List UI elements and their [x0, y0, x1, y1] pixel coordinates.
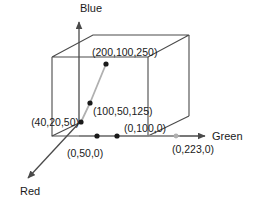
point-dot-0-100-0 [114, 133, 119, 138]
point-label-0-223-0: (0,223,0) [172, 143, 214, 155]
point-label-40-20-50: (40,20,50) [31, 116, 79, 128]
point-label-200-100-250: (200,100,250) [92, 46, 157, 58]
point-label-0-100-0: (0,100,0) [124, 122, 166, 134]
blue-axis-label: Blue [80, 2, 102, 14]
point-dot-40-20-50 [78, 119, 83, 124]
rgb-color-cube-figure: Blue Green Red (200,100,250) (100,50,125… [0, 0, 254, 206]
figure-canvas: Blue Green Red (200,100,250) (100,50,125… [0, 0, 254, 206]
red-axis-label: Red [20, 185, 40, 197]
point-dot-0-50-0 [94, 133, 99, 138]
point-label-0-50-0: (0,50,0) [67, 147, 103, 159]
point-label-100-50-125: (100,50,125) [93, 105, 153, 117]
point-dot-100-50-125 [87, 100, 92, 105]
green-axis-label: Green [212, 130, 243, 142]
point-dot-200-100-250 [103, 61, 108, 66]
point-dot-0-223-0 [174, 134, 179, 139]
